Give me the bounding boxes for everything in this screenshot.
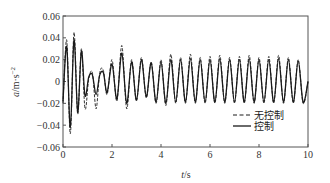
y-axis-title: a/m·s−2 bbox=[9, 66, 21, 97]
acceleration-time-chart: 0.060.040.020−0.02−0.04−0.06 0246810 t/s… bbox=[0, 0, 330, 183]
y-tick-label: −0.06 bbox=[37, 142, 60, 153]
y-tick-label: −0.04 bbox=[37, 120, 60, 131]
legend-label-uncontrolled: 无控制 bbox=[254, 109, 284, 121]
y-tick-label: −0.02 bbox=[37, 98, 60, 109]
legend-label-controlled: 控制 bbox=[254, 120, 274, 132]
y-axis-ticks: 0.060.040.020−0.02−0.04−0.06 bbox=[37, 11, 66, 153]
x-tick-label: 4 bbox=[159, 149, 164, 160]
y-tick-label: 0.02 bbox=[43, 54, 61, 65]
y-tick-label: 0 bbox=[55, 76, 60, 87]
x-axis-ticks: 0246810 bbox=[61, 144, 314, 160]
x-tick-label: 8 bbox=[257, 149, 262, 160]
legend: 无控制 控制 bbox=[233, 109, 284, 132]
x-tick-label: 6 bbox=[208, 149, 213, 160]
x-tick-label: 0 bbox=[61, 149, 66, 160]
y-tick-label: 0.06 bbox=[43, 11, 61, 22]
legend-item-controlled: 控制 bbox=[233, 120, 274, 132]
x-axis-title: t/s bbox=[181, 169, 191, 180]
legend-item-uncontrolled: 无控制 bbox=[233, 109, 284, 121]
x-tick-label: 2 bbox=[110, 149, 115, 160]
y-tick-label: 0.04 bbox=[43, 32, 61, 43]
x-tick-label: 10 bbox=[303, 149, 313, 160]
